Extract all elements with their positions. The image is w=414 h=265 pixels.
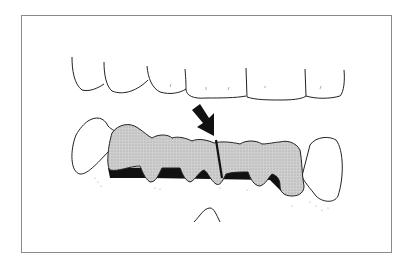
dental-illustration <box>0 0 414 265</box>
lower-bridge <box>108 125 304 196</box>
abutment-right <box>302 137 342 201</box>
arrow-icon <box>192 104 214 136</box>
upper-teeth <box>72 57 344 100</box>
tongue-tip <box>194 208 220 222</box>
